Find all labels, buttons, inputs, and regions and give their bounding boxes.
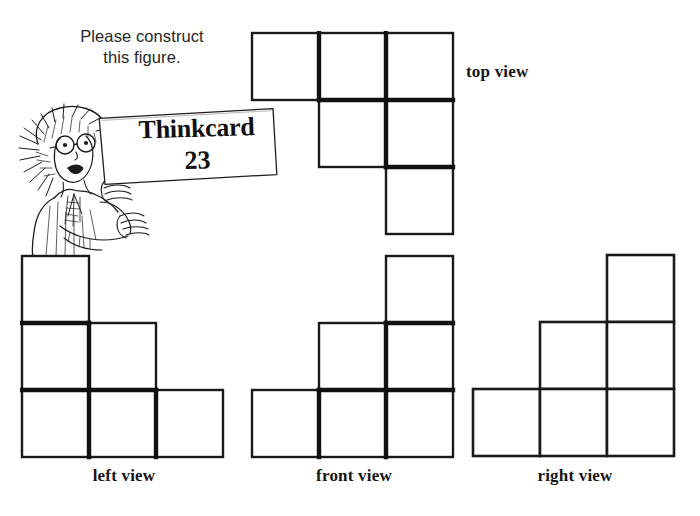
instruction-line-2: this figure.	[52, 47, 232, 68]
top-view-grid	[250, 31, 460, 243]
figure-top-view	[250, 31, 460, 243]
front-view-grid	[250, 254, 460, 464]
right-view-grid	[471, 253, 681, 463]
figure-left-view	[20, 254, 230, 464]
left-view-grid	[20, 254, 230, 464]
right-view-label: right view	[473, 466, 677, 486]
thinkcard-title: Thinkcard	[138, 114, 254, 143]
figure-front-view	[250, 254, 460, 464]
thinkcard-number: 23	[184, 145, 211, 176]
front-view-label: front view	[252, 466, 456, 486]
left-view-label: left view	[22, 466, 226, 486]
top-view-label: top view	[466, 62, 529, 82]
worksheet-page: Please construct this figure.	[0, 0, 700, 516]
instruction-text: Please construct this figure.	[52, 26, 232, 68]
instruction-line-1: Please construct	[52, 26, 232, 47]
figure-right-view	[471, 253, 681, 463]
